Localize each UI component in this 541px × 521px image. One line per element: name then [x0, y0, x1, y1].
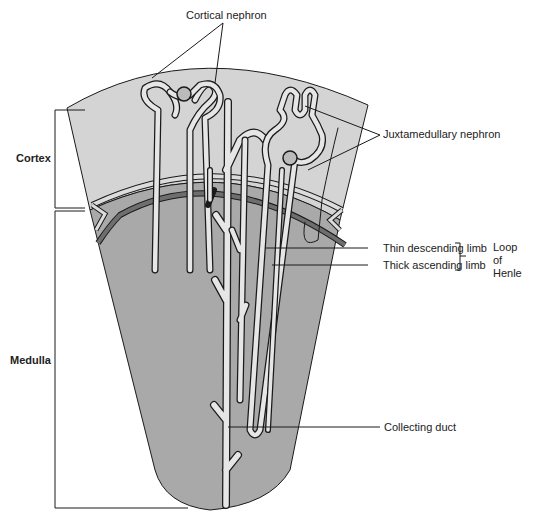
label-loop-line3: Henle — [493, 268, 522, 279]
label-loop-line2: of — [493, 255, 502, 266]
label-thin-descending-limb: Thin descending limb — [383, 243, 487, 254]
label-medulla: Medulla — [10, 355, 51, 366]
medulla-region — [90, 182, 340, 510]
glomerulus-cortical — [177, 87, 191, 101]
label-loop-line1: Loop — [493, 242, 517, 253]
label-cortical-nephron: Cortical nephron — [186, 10, 267, 21]
label-thick-ascending-limb: Thick ascending limb — [383, 260, 486, 271]
label-juxtamedullary-nephron: Juxtamedullary nephron — [383, 129, 500, 140]
label-collecting-duct: Collecting duct — [384, 422, 456, 433]
glomerulus-juxtamedullary — [283, 151, 297, 165]
label-cortex: Cortex — [16, 153, 51, 164]
